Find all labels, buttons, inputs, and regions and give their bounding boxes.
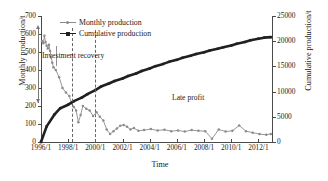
x-axis-title: Time xyxy=(120,160,200,169)
annotation-investment-line1: Investment recovery xyxy=(42,52,104,61)
right-tick xyxy=(273,16,276,17)
legend-item-monthly[interactable]: Monthly production xyxy=(60,17,151,28)
legend-marker-monthly-icon xyxy=(60,18,76,27)
investment-arrow-head-bottom xyxy=(36,99,40,103)
phase-divider-left xyxy=(72,28,73,142)
bottom-tick-label: 2012/1 xyxy=(238,144,278,152)
right-tick-label: 15000 xyxy=(277,62,295,70)
chart-figure: 0100200300400500600700 05000100001500020… xyxy=(0,0,328,181)
chart-legend: Monthly production Cumulative production xyxy=(60,17,151,39)
legend-label-cumulative: Cumulative production xyxy=(79,29,151,38)
right-tick-label: 25000 xyxy=(277,12,295,20)
legend-marker-cumulative-icon xyxy=(60,29,76,38)
right-tick-label: 5000 xyxy=(277,113,292,121)
annotation-investment-recovery: Investment recovery xyxy=(42,52,104,61)
right-tick xyxy=(273,66,276,67)
right-tick xyxy=(273,92,276,93)
right-tick xyxy=(273,117,276,118)
phase-divider-dashed xyxy=(95,30,96,142)
right-tick-label: 10000 xyxy=(277,88,295,96)
right-tick-label: 20000 xyxy=(277,37,295,45)
legend-label-monthly: Monthly production xyxy=(79,18,142,27)
annotation-late-profit: Late profit xyxy=(172,94,204,103)
right-axis-title: Cumulative production/t xyxy=(304,5,313,97)
left-axis-title: Monthly production/t xyxy=(18,5,27,97)
legend-item-cumulative[interactable]: Cumulative production xyxy=(60,28,151,39)
investment-arrow-shaft xyxy=(38,28,39,103)
right-axis-line xyxy=(272,16,273,142)
left-tick-label: 200 xyxy=(0,102,36,110)
left-tick-label: 100 xyxy=(0,120,36,128)
right-tick xyxy=(273,41,276,42)
right-tick xyxy=(273,142,276,143)
